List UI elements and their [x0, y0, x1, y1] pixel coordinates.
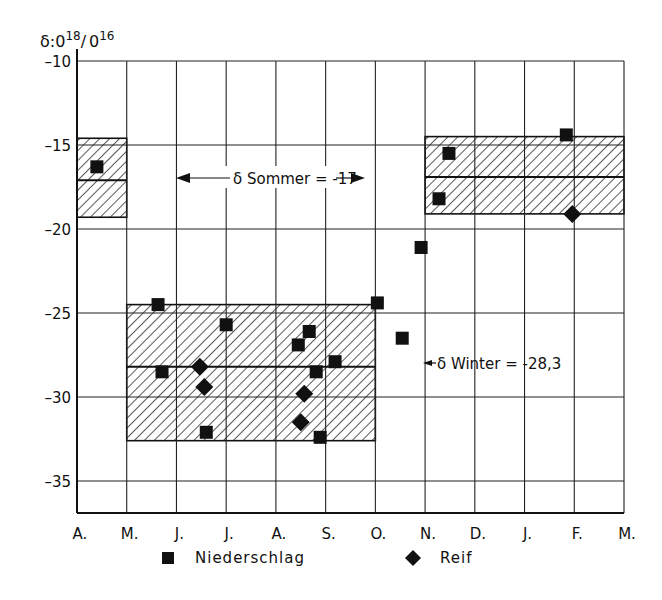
niederschlag-point — [396, 332, 409, 345]
legend: Niederschlag Reif — [162, 549, 472, 567]
niederschlag-point — [314, 431, 327, 444]
legend-niederschlag-label: Niederschlag — [195, 549, 305, 567]
niederschlag-point — [329, 355, 342, 368]
x-tick-label: J. — [224, 525, 234, 543]
y-axis-label: δ:018/016 — [40, 29, 115, 51]
y-tick-label: –15 — [44, 137, 71, 155]
y-tick-label: –35 — [44, 473, 71, 491]
legend-square-icon — [162, 552, 174, 564]
x-tick-label: M. — [618, 525, 636, 543]
x-tick-label: A. — [73, 525, 88, 543]
niederschlag-point — [442, 147, 455, 160]
x-tick-label: F. — [572, 525, 583, 543]
niederschlag-point — [156, 365, 169, 378]
y-tick-label: –25 — [44, 305, 71, 323]
niederschlag-point — [310, 365, 323, 378]
legend-diamond-icon — [405, 550, 421, 566]
x-tick-label: J. — [522, 525, 532, 543]
niederschlag-point — [303, 325, 316, 338]
sommer-label: δ Sommer = -17 — [233, 170, 357, 188]
niederschlag-point — [371, 296, 384, 309]
y-tick-label: –10 — [44, 53, 71, 71]
y-tick-label: –20 — [44, 221, 71, 239]
axes: –10–15–20–25–30–35A.M.J.J.A.S.O.N.D.J.F.… — [44, 49, 635, 543]
niederschlag-point — [415, 241, 428, 254]
x-tick-label: A. — [272, 525, 287, 543]
winter-annotation: δ Winter = -28,3 — [423, 355, 561, 373]
niederschlag-point — [152, 298, 165, 311]
niederschlag-point — [220, 318, 233, 331]
winter-label: δ Winter = -28,3 — [437, 355, 561, 373]
niederschlag-point — [292, 338, 305, 351]
y-tick-label: –30 — [44, 389, 71, 407]
x-tick-label: S. — [321, 525, 335, 543]
sommer-annotation: δ Sommer = -17 — [176, 166, 365, 188]
x-tick-label: N. — [420, 525, 436, 543]
x-tick-label: D. — [470, 525, 486, 543]
niederschlag-point — [433, 192, 446, 205]
x-tick-label: J. — [174, 525, 184, 543]
x-tick-label: M. — [121, 525, 139, 543]
niederschlag-point — [200, 426, 213, 439]
range-box — [77, 138, 127, 217]
niederschlag-point — [90, 160, 103, 173]
x-tick-label: O. — [370, 525, 386, 543]
niederschlag-point — [560, 128, 573, 141]
isotope-chart: δ:018/016 –10–15–20–25–30–35A.M.J.J.A.S.… — [0, 0, 662, 600]
legend-reif-label: Reif — [440, 549, 472, 567]
grid — [77, 61, 624, 513]
